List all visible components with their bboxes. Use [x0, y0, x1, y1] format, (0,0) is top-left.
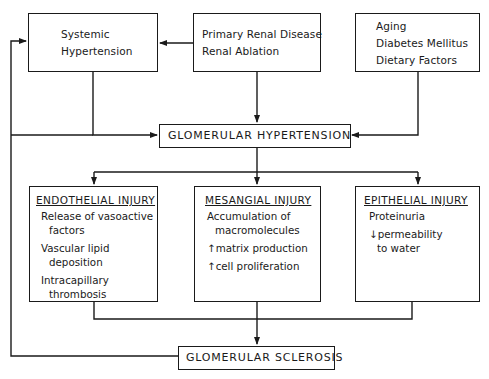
node-line: Diabetes Mellitus: [376, 35, 468, 52]
injury-title: MESANGIAL INJURY: [205, 194, 311, 206]
risk-factors-node: Aging Diabetes Mellitus Dietary Factors: [355, 13, 480, 72]
injury-title: ENDOTHELIAL INJURY: [36, 194, 155, 206]
injury-item: ↑cell proliferation: [207, 259, 311, 273]
node-line: Systemic: [61, 26, 132, 43]
node-line: Dietary Factors: [376, 52, 468, 69]
injury-title: EPITHELIAL INJURY: [364, 194, 468, 206]
node-line: Primary Renal Disease: [202, 26, 322, 43]
injury-item: Intracapillarythrombosis: [41, 273, 155, 301]
endothelial-injury-node: ENDOTHELIAL INJURY Release of vasoactive…: [29, 186, 158, 302]
node-line: Aging: [376, 18, 468, 35]
primary-renal-disease-node: Primary Renal Disease Renal Ablation: [193, 13, 321, 72]
injury-item: Accumulation ofmacromolecules: [207, 209, 311, 237]
node-line: Renal Ablation: [202, 43, 322, 60]
injury-item: ↓permeabilityto water: [369, 227, 468, 255]
systemic-hypertension-node: Systemic Hypertension: [28, 13, 158, 72]
node-line: Hypertension: [61, 43, 132, 60]
injury-item: Proteinuria: [369, 209, 468, 223]
glomerular-hypertension-node: GLOMERULAR HYPERTENSION: [159, 124, 351, 148]
injury-item: ↑matrix production: [207, 241, 311, 255]
epithelial-injury-node: EPITHELIAL INJURY Proteinuria ↓permeabil…: [355, 186, 480, 302]
glomerular-sclerosis-node: GLOMERULAR SCLEROSIS: [178, 346, 335, 370]
node-label: GLOMERULAR HYPERTENSION: [168, 129, 351, 142]
mesangial-injury-node: MESANGIAL INJURY Accumulation ofmacromol…: [194, 186, 321, 302]
injury-item: Release of vasoactivefactors: [41, 209, 155, 237]
injury-item: Vascular lipiddeposition: [41, 241, 155, 269]
node-label: GLOMERULAR SCLEROSIS: [186, 351, 343, 364]
